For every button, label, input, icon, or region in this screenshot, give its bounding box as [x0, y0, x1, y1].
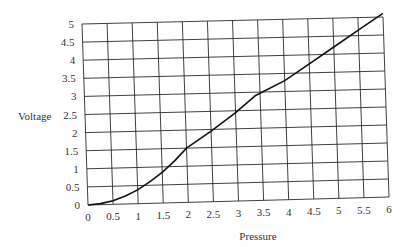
x-tick-label: 2 — [186, 208, 192, 220]
x-tick-label: 3.5 — [257, 206, 271, 218]
y-tick-label: 4 — [70, 54, 76, 66]
x-tick-label: 4 — [286, 206, 292, 218]
y-tick-label: 4.5 — [61, 36, 75, 48]
x-tick-label: 5.5 — [357, 204, 371, 216]
y-tick-label: 0.5 — [66, 181, 80, 193]
y-tick-label: 3 — [71, 90, 77, 102]
y-tick-label: 2 — [72, 127, 78, 139]
x-tick-label: 0.5 — [106, 210, 120, 222]
y-tick-label: 1 — [73, 163, 79, 175]
x-tick-label: 1 — [135, 210, 141, 222]
y-tick-label: 2.5 — [63, 109, 77, 121]
x-tick-label: 0 — [85, 211, 91, 223]
chart-grid — [82, 17, 389, 205]
x-tick-label: 5 — [336, 204, 342, 216]
x-tick-label: 4.5 — [307, 205, 321, 217]
x-axis-ticks: 00.511.522.533.544.555.56 — [85, 203, 392, 223]
line-chart: 00.511.522.533.544.555.56 00.511.522.533… — [0, 0, 409, 247]
y-tick-label: 1.5 — [64, 145, 78, 157]
x-tick-label: 3 — [236, 207, 242, 219]
y-axis-ticks: 00.511.522.533.544.55 — [61, 18, 81, 211]
x-tick-label: 2.5 — [207, 208, 221, 220]
y-tick-label: 3.5 — [62, 72, 76, 84]
x-tick-label: 6 — [386, 203, 392, 215]
y-axis-label: Voltage — [18, 110, 52, 122]
y-tick-label: 5 — [69, 18, 75, 30]
x-tick-label: 1.5 — [156, 209, 170, 221]
x-axis-label: Pressure — [239, 230, 276, 242]
y-tick-label: 0 — [75, 199, 81, 211]
